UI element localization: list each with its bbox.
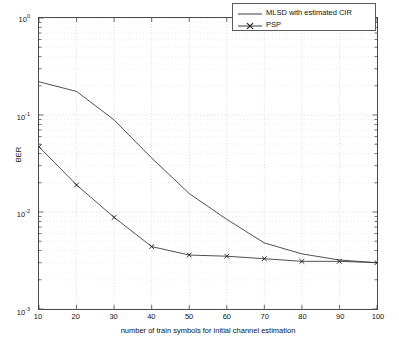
x-axis-label: number of train symbols for initial chan… xyxy=(38,326,378,335)
legend-label-mlsd: MLSD with estimated CIR xyxy=(264,8,352,17)
x-tick-label: 30 xyxy=(99,312,129,322)
plot-area xyxy=(38,17,378,310)
x-tick-label: 90 xyxy=(325,312,355,322)
y-axis-label: BER xyxy=(14,125,23,185)
y-tick-label: 10-1 xyxy=(4,110,30,122)
legend: MLSD with estimated CIR PSP xyxy=(232,3,376,31)
y-tick-label: 100 xyxy=(4,12,30,24)
x-tick-label: 50 xyxy=(174,312,204,322)
legend-item-psp: PSP xyxy=(236,18,372,30)
x-tick-label: 40 xyxy=(136,312,166,322)
series-mlsd xyxy=(39,82,377,263)
y-tick-label: 10-3 xyxy=(4,305,30,317)
x-tick-label: 100 xyxy=(363,312,393,322)
series-psp xyxy=(39,144,377,265)
y-tick-label: 10-2 xyxy=(4,207,30,219)
x-tick-label: 70 xyxy=(250,312,280,322)
ber-vs-train-symbols-chart: 102030405060708090100 10010-110-210-3 nu… xyxy=(0,0,399,348)
legend-item-mlsd: MLSD with estimated CIR xyxy=(236,6,372,18)
x-tick-label: 20 xyxy=(61,312,91,322)
data-layer xyxy=(39,18,377,309)
legend-label-psp: PSP xyxy=(264,20,281,29)
legend-line-x-marker-icon xyxy=(236,18,264,30)
legend-line-icon xyxy=(236,6,264,18)
x-tick-label: 60 xyxy=(212,312,242,322)
x-tick-label: 80 xyxy=(287,312,317,322)
